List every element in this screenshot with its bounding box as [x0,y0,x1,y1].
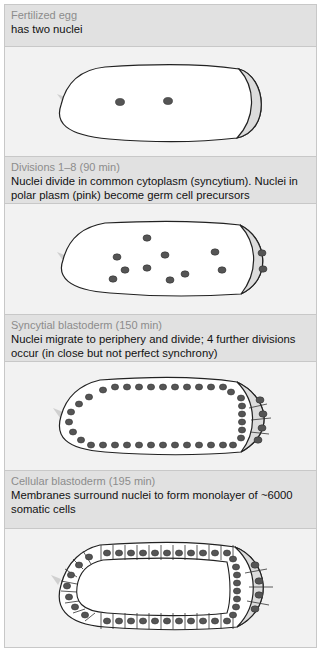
nucleus [233,572,240,578]
panel-4-description: Membranes surround nuclei to form monola… [11,488,301,516]
nucleus [139,550,146,556]
nucleus [171,442,178,448]
nucleus [159,442,166,448]
nucleus [183,384,190,390]
nucleus [223,618,230,624]
nucleus [219,384,226,390]
nucleus [237,395,244,401]
nucleus [111,384,118,390]
nucleus [237,435,244,441]
nucleus [69,429,76,435]
nucleus [147,384,154,390]
nucleus [233,588,240,594]
nucleus [71,604,78,610]
pole-cell-nucleus [251,606,259,612]
pole-cell-nucleus [259,266,267,272]
nucleus [135,442,142,448]
nucleus [171,384,178,390]
nucleus [75,401,82,407]
nucleus [63,583,70,589]
nucleus [187,550,194,556]
nucleus [233,580,240,586]
egg-outline [61,221,262,296]
panel-1-stage: Fertilized egg [11,8,310,22]
nucleus [115,618,122,624]
nucleus [218,267,226,273]
nucleus [238,403,245,409]
nucleus [238,427,245,433]
panel-1-header: Fertilized egg has two nuclei [5,5,316,47]
nucleus [115,550,122,556]
nucleus [143,265,151,271]
nucleus [211,550,218,556]
nucleus [223,550,230,556]
micropyle-mark [51,575,61,585]
nucleus [143,235,151,241]
nucleus [233,596,240,602]
syncytium-illustration [5,204,316,314]
panel-3-figure [5,362,316,470]
panel-4-header: Cellular blastoderm (195 min) Membranes … [5,470,316,529]
egg-inner-yolk [77,558,230,615]
nucleus [123,384,130,390]
panel-3-stage: Syncytial blastoderm (150 min) [11,318,310,332]
nucleus [127,550,134,556]
nucleus [199,618,206,624]
nucleus [219,442,226,448]
nucleus [238,419,245,425]
panel-3-header: Syncytial blastoderm (150 min) Nuclei mi… [5,314,316,362]
pole-cell-nucleus [255,592,263,598]
pole-cell-nucleus [258,250,266,256]
nucleus [151,550,158,556]
nucleus [99,387,106,393]
nucleus [99,442,106,448]
nucleus [151,618,158,624]
nucleus [175,618,182,624]
nucleus [75,562,82,568]
panel-3-description: Nuclei migrate to periphery and divide; … [11,332,301,360]
nucleus [65,594,72,600]
nucleus [211,249,219,255]
nucleus [111,442,118,448]
nucleus [181,271,189,277]
cellular-blastoderm-illustration [5,529,316,647]
nucleus [229,612,236,618]
pole-cell-nucleus [256,397,264,403]
nucleus [175,550,182,556]
nucleus [229,442,236,448]
nucleus [113,254,121,260]
nucleus [127,618,134,624]
nucleus [85,394,92,400]
nucleus [81,612,88,618]
nucleus [103,618,110,624]
panel-2-figure [5,204,316,314]
nucleus [211,618,218,624]
syncytial-blastoderm-illustration [5,362,316,470]
nucleus [227,389,234,395]
nucleus [183,442,190,448]
nucleus [207,442,214,448]
nucleus [67,409,74,415]
nucleus [135,384,142,390]
egg-outline [59,65,261,142]
nucleus [85,554,92,560]
diagram-frame: Fertilized egg has two nuclei Divisions … [4,4,317,648]
nucleus [65,419,72,425]
nucleus [123,442,130,448]
panel-2-stage: Divisions 1–8 (90 min) [11,160,310,174]
nucleus [232,604,239,610]
nucleus [232,564,239,570]
panel-2-header: Divisions 1–8 (90 min) Nuclei divide in … [5,156,316,204]
nucleus [238,411,245,417]
nucleus [159,384,166,390]
nucleus [87,442,94,448]
nucleus [67,572,74,578]
nucleus [103,550,110,556]
nucleus [195,384,202,390]
nucleus [109,276,117,282]
nucleus [77,437,84,443]
nucleus [166,277,174,283]
nucleus [161,252,169,258]
nucleus [229,556,236,562]
panel-4-figure [5,529,316,647]
